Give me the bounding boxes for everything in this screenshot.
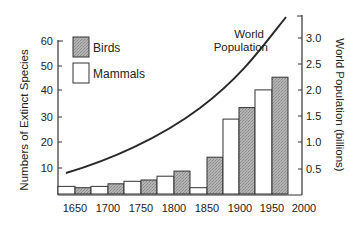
right-tick-3.0: 3.0 bbox=[306, 32, 321, 44]
left-tick-50: 50 bbox=[41, 60, 53, 72]
legend-birds-swatch bbox=[73, 37, 89, 57]
bar-birds-1800 bbox=[207, 157, 223, 194]
left-axis-title: Numbers of Extinct Species bbox=[18, 49, 30, 191]
bar-mammals-1800 bbox=[190, 188, 207, 194]
left-tick-20: 20 bbox=[41, 136, 53, 148]
right-axis-title: World Population (billions) bbox=[334, 38, 346, 172]
x-tick-1950: 1950 bbox=[260, 202, 284, 214]
left-tick-60: 60 bbox=[41, 35, 53, 47]
x-tick-1800: 1800 bbox=[162, 202, 186, 214]
bar-mammals-1900 bbox=[255, 90, 272, 194]
x-tick-1750: 1750 bbox=[129, 202, 153, 214]
legend: Birds Mammals bbox=[73, 37, 145, 83]
x-tick-1700: 1700 bbox=[96, 202, 120, 214]
bar-birds-1650 bbox=[108, 184, 124, 194]
right-tick-2.0: 2.0 bbox=[306, 84, 321, 96]
bar-birds-1850 bbox=[239, 108, 255, 194]
x-tick-1850: 1850 bbox=[195, 202, 219, 214]
right-tick-2.5: 2.5 bbox=[306, 58, 321, 70]
bar-birds-1750 bbox=[174, 171, 190, 194]
x-tick-2000: 2000 bbox=[292, 202, 316, 214]
right-tick-1.5: 1.5 bbox=[306, 110, 321, 122]
left-tick-30: 30 bbox=[41, 111, 53, 123]
annotation-population: Population bbox=[214, 41, 268, 53]
bar-birds-1700 bbox=[141, 180, 157, 194]
bar-mammals-1600 bbox=[58, 186, 75, 194]
bar-mammals-1650 bbox=[91, 186, 108, 194]
bar-mammals-1750 bbox=[157, 176, 174, 194]
x-tick-1900: 1900 bbox=[228, 202, 252, 214]
bar-mammals-1700 bbox=[124, 181, 141, 194]
right-tick-0.5: 0.5 bbox=[306, 163, 321, 175]
left-tick-10: 10 bbox=[41, 162, 53, 174]
annotation-world: World bbox=[234, 28, 264, 40]
x-tick-1650: 1650 bbox=[63, 202, 87, 214]
bar-birds-1600 bbox=[75, 188, 91, 194]
bar-mammals-1850 bbox=[223, 119, 239, 194]
legend-mammals-label: Mammals bbox=[93, 67, 145, 81]
bars bbox=[58, 77, 288, 194]
right-tick-1.0: 1.0 bbox=[306, 136, 321, 148]
x-axis: 1650 1700 1750 1800 1850 1900 1950 2000 bbox=[58, 195, 316, 214]
chart: 60 50 40 30 20 10 Numbers of Extinct Spe… bbox=[0, 0, 349, 227]
right-axis: 3.0 2.5 2.0 1.5 1.0 0.5 World Population… bbox=[297, 15, 346, 195]
legend-mammals-swatch bbox=[73, 63, 89, 83]
legend-birds-label: Birds bbox=[93, 41, 120, 55]
bar-birds-1900 bbox=[272, 77, 288, 194]
left-axis: 60 50 40 30 20 10 Numbers of Extinct Spe… bbox=[18, 35, 63, 195]
left-tick-40: 40 bbox=[41, 84, 53, 96]
